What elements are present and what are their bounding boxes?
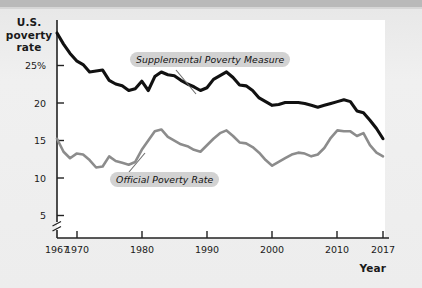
- y-tick-label-10: 10: [6, 173, 46, 184]
- x-axis-title: Year: [330, 262, 386, 275]
- x-tick-label-1970: 1970: [54, 244, 100, 255]
- x-axis-ticks: [77, 231, 383, 238]
- y-axis-break-icon: [53, 222, 62, 232]
- series-label-supplemental: Supplemental Poverty Measure: [130, 52, 290, 67]
- figure-container: U.S.povertyrate Year 25% 20 15 10 5 1967…: [0, 0, 422, 288]
- official-poverty-rate-line: [57, 129, 383, 167]
- series-label-official: Official Poverty Rate: [110, 172, 219, 187]
- y-tick-label-15: 15: [6, 135, 46, 146]
- x-tick-label-1990: 1990: [184, 244, 230, 255]
- x-tick-label-2000: 2000: [249, 244, 295, 255]
- x-tick-label-2010: 2010: [314, 244, 360, 255]
- y-tick-label-20: 20: [6, 98, 46, 109]
- y-axis-title: U.S.povertyrate: [4, 16, 54, 54]
- leader-line-supplemental: [176, 70, 196, 94]
- x-tick-label-1980: 1980: [119, 244, 165, 255]
- x-tick-label-2017: 2017: [360, 244, 406, 255]
- supplemental-poverty-measure-line: [57, 33, 383, 139]
- y-tick-label-5: 5: [6, 210, 46, 221]
- y-tick-label-25: 25%: [6, 60, 46, 71]
